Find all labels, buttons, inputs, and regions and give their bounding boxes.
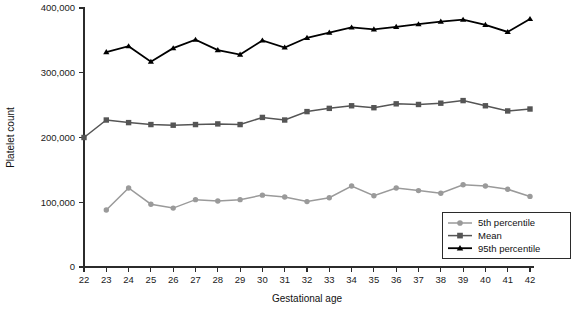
data-point-marker xyxy=(259,37,265,42)
x-tick-label: 27 xyxy=(190,274,201,285)
data-point-marker xyxy=(457,233,463,239)
y-axis-group: 0100,000200,000300,000400,000 Platelet c… xyxy=(5,2,84,272)
data-point-marker xyxy=(394,101,399,106)
data-point-marker xyxy=(371,193,376,198)
x-tick-label: 28 xyxy=(213,274,224,285)
data-point-marker xyxy=(327,106,332,111)
data-point-marker xyxy=(416,102,421,107)
series-line xyxy=(106,185,530,210)
data-point-marker xyxy=(282,117,287,122)
data-point-marker xyxy=(457,220,463,226)
data-point-marker xyxy=(192,37,198,42)
y-tick-label: 400,000 xyxy=(41,2,75,13)
y-axis-ticks: 0100,000200,000300,000400,000 xyxy=(41,2,84,272)
data-point-marker xyxy=(193,197,198,202)
x-tick-label: 37 xyxy=(413,274,424,285)
data-point-marker xyxy=(349,183,354,188)
series-1 xyxy=(81,98,532,140)
x-axis-title: Gestational age xyxy=(272,293,342,304)
x-axis-ticks: 2223242526272829303132333435363738394041… xyxy=(79,267,536,285)
x-tick-label: 38 xyxy=(436,274,447,285)
x-tick-label: 23 xyxy=(101,274,112,285)
data-point-marker xyxy=(438,100,443,105)
x-tick-label: 39 xyxy=(458,274,469,285)
data-point-marker xyxy=(327,195,332,200)
data-point-marker xyxy=(104,207,109,212)
x-tick-label: 42 xyxy=(525,274,536,285)
legend-label: Mean xyxy=(478,230,502,241)
data-point-marker xyxy=(237,197,242,202)
x-tick-label: 35 xyxy=(369,274,380,285)
y-axis-title: Platelet count xyxy=(5,107,16,168)
legend-label: 95th percentile xyxy=(478,243,540,254)
data-point-marker xyxy=(460,98,465,103)
data-point-marker xyxy=(505,108,510,113)
x-tick-label: 22 xyxy=(79,274,90,285)
data-point-marker xyxy=(438,190,443,195)
data-point-marker xyxy=(237,122,242,127)
data-point-marker xyxy=(148,201,153,206)
data-point-marker xyxy=(126,120,131,125)
x-tick-label: 32 xyxy=(302,274,313,285)
x-tick-label: 40 xyxy=(480,274,491,285)
x-tick-label: 26 xyxy=(168,274,179,285)
data-point-marker xyxy=(527,106,532,111)
x-tick-label: 30 xyxy=(257,274,268,285)
chart-figure: 0100,000200,000300,000400,000 Platelet c… xyxy=(0,0,586,316)
y-tick-label: 0 xyxy=(70,261,75,272)
y-tick-label: 100,000 xyxy=(41,197,75,208)
data-point-marker xyxy=(527,16,533,21)
data-point-marker xyxy=(416,188,421,193)
chart-legend: 5th percentileMean95th percentile xyxy=(442,212,570,258)
x-tick-label: 41 xyxy=(502,274,513,285)
data-point-marker xyxy=(483,103,488,108)
data-point-marker xyxy=(527,194,532,199)
data-point-marker xyxy=(304,109,309,114)
x-tick-label: 29 xyxy=(235,274,246,285)
y-tick-label: 300,000 xyxy=(41,67,75,78)
data-point-marker xyxy=(126,43,132,48)
data-point-marker xyxy=(148,122,153,127)
data-point-marker xyxy=(505,187,510,192)
series-line xyxy=(84,101,530,138)
data-point-marker xyxy=(371,105,376,110)
x-tick-label: 31 xyxy=(279,274,290,285)
data-point-marker xyxy=(483,183,488,188)
data-point-marker xyxy=(215,121,220,126)
data-point-marker xyxy=(81,135,86,140)
data-point-marker xyxy=(193,122,198,127)
data-point-marker xyxy=(260,115,265,120)
data-point-marker xyxy=(104,117,109,122)
data-point-marker xyxy=(460,182,465,187)
data-point-marker xyxy=(349,103,354,108)
data-point-marker xyxy=(126,185,131,190)
data-point-marker xyxy=(282,194,287,199)
x-axis-group: 2223242526272829303132333435363738394041… xyxy=(79,267,536,304)
series-0 xyxy=(104,182,533,213)
legend-label: 5th percentile xyxy=(478,217,535,228)
y-tick-label: 200,000 xyxy=(41,132,75,143)
data-point-marker xyxy=(215,198,220,203)
platelet-count-line-chart: 0100,000200,000300,000400,000 Platelet c… xyxy=(0,0,586,316)
x-tick-label: 33 xyxy=(324,274,335,285)
x-tick-label: 34 xyxy=(346,274,357,285)
data-point-marker xyxy=(260,192,265,197)
x-tick-label: 36 xyxy=(391,274,402,285)
series-2 xyxy=(103,16,533,64)
data-point-marker xyxy=(171,122,176,127)
data-point-marker xyxy=(171,205,176,210)
data-point-marker xyxy=(394,185,399,190)
series-line xyxy=(106,19,530,62)
figure-caption xyxy=(0,309,586,316)
x-tick-label: 25 xyxy=(146,274,157,285)
data-series-group xyxy=(81,16,533,213)
data-point-marker xyxy=(304,199,309,204)
x-tick-label: 24 xyxy=(123,274,134,285)
